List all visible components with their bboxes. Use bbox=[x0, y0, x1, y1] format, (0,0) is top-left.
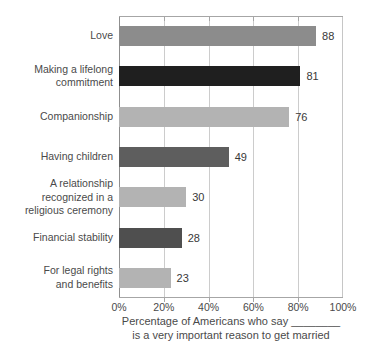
x-tick-label-0pct: 0% bbox=[111, 301, 126, 313]
category-labels: LoveMaking a lifelong commitmentCompanio… bbox=[0, 16, 119, 298]
x-axis-caption: Percentage of Americans who say ________… bbox=[122, 314, 340, 342]
category-label-2: Making a lifelong commitment bbox=[0, 56, 119, 96]
bar-row: 76 bbox=[119, 97, 343, 137]
bar-value-label: 28 bbox=[188, 232, 200, 244]
bottom-tickmark-80pct bbox=[298, 298, 299, 302]
top-tickmark-20pct bbox=[164, 17, 165, 21]
bar-row: 23 bbox=[119, 258, 343, 298]
x-tick-label-20pct: 20% bbox=[153, 301, 174, 313]
plot-area: 88817649302823 bbox=[119, 16, 343, 298]
bar-value-label: 23 bbox=[177, 272, 189, 284]
plot-bottom-border bbox=[119, 297, 343, 298]
category-label-1: Love bbox=[0, 16, 119, 56]
x-tick-label-80pct: 80% bbox=[288, 301, 309, 313]
bar-chart: LoveMaking a lifelong commitmentCompanio… bbox=[0, 0, 365, 355]
category-label-5: A relationship recognized in a religious… bbox=[0, 177, 119, 217]
category-label-6: Financial stability bbox=[0, 217, 119, 257]
bottom-tickmark-20pct bbox=[164, 298, 165, 302]
bar-7 bbox=[119, 268, 171, 288]
x-tick-label-40pct: 40% bbox=[198, 301, 219, 313]
bottom-tickmark-40pct bbox=[209, 298, 210, 302]
bar-value-label: 81 bbox=[306, 70, 318, 82]
bar-value-label: 76 bbox=[295, 111, 307, 123]
bar-value-label: 30 bbox=[192, 191, 204, 203]
top-tickmark-60pct bbox=[253, 17, 254, 21]
bar-row: 81 bbox=[119, 56, 343, 96]
bar-3 bbox=[119, 107, 289, 127]
bar-value-label: 88 bbox=[322, 30, 334, 42]
bar-2 bbox=[119, 66, 300, 86]
x-axis-tick-labels: 0%20%40%60%80%100% bbox=[119, 301, 343, 314]
category-label-7: For legal rights and benefits bbox=[0, 258, 119, 298]
bar-row: 28 bbox=[119, 217, 343, 257]
bottom-tickmark-60pct bbox=[253, 298, 254, 302]
bar-6 bbox=[119, 228, 182, 248]
top-tickmark-80pct bbox=[298, 17, 299, 21]
bar-row: 88 bbox=[119, 16, 343, 56]
bar-1 bbox=[119, 26, 316, 46]
category-label-3: Companionship bbox=[0, 97, 119, 137]
bar-5 bbox=[119, 187, 186, 207]
x-tick-label-100pct: 100% bbox=[330, 301, 357, 313]
bar-value-label: 49 bbox=[235, 151, 247, 163]
x-axis-caption-line1: Percentage of Americans who say ________ bbox=[122, 314, 340, 328]
plot-top-border bbox=[119, 16, 343, 17]
bar-4 bbox=[119, 147, 229, 167]
bar-row: 49 bbox=[119, 137, 343, 177]
category-label-4: Having children bbox=[0, 137, 119, 177]
top-tickmark-40pct bbox=[209, 17, 210, 21]
x-tick-label-60pct: 60% bbox=[243, 301, 264, 313]
x-axis-caption-line2: is a very important reason to get marrie… bbox=[122, 328, 340, 342]
bar-rows: 88817649302823 bbox=[119, 16, 343, 298]
bar-row: 30 bbox=[119, 177, 343, 217]
